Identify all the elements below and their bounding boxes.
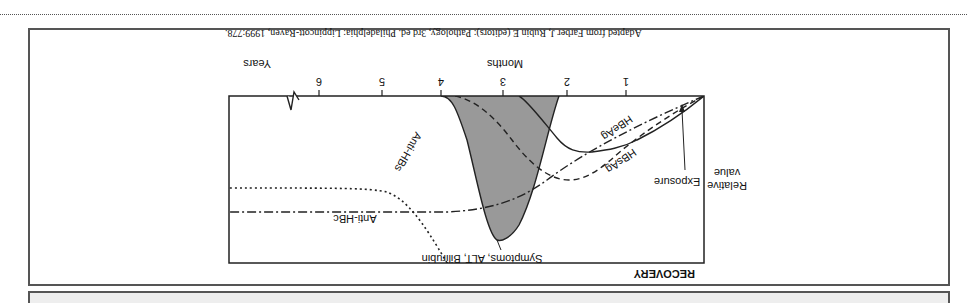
anti-hbs-curve xyxy=(229,188,447,263)
years-axis-label: Years xyxy=(243,58,271,70)
axis-break-mark xyxy=(287,92,299,110)
tick-label-year-5: 5 xyxy=(379,76,385,88)
figure-caption: Adapted from Farber J, Rubin E (editors)… xyxy=(225,27,642,39)
recovery-phase-label: RECOVERY xyxy=(633,268,695,280)
y-axis-label-line1: Relative xyxy=(707,180,747,192)
symptoms-area xyxy=(441,96,559,240)
tick-label-month-3: 3 xyxy=(500,76,506,88)
y-axis-label-line2: value xyxy=(714,167,740,179)
hbeag-label: HBeAg xyxy=(600,113,635,143)
tick-label-month-1: 1 xyxy=(623,76,629,88)
anti-hbs-label: Anti-HBs xyxy=(392,130,424,174)
symptoms-label: Symptoms, ALT, Bilirubin xyxy=(422,253,543,265)
tick-label-year-6: 6 xyxy=(316,76,322,88)
anti-hbc-label: Anti-HBc xyxy=(333,213,377,225)
tick-label-month-2: 2 xyxy=(564,76,570,88)
months-axis-label: Months xyxy=(486,58,523,70)
tick-label-month-4: 4 xyxy=(438,76,444,88)
exposure-label: Exposure xyxy=(654,176,700,188)
x-axis-ticks xyxy=(319,90,626,96)
